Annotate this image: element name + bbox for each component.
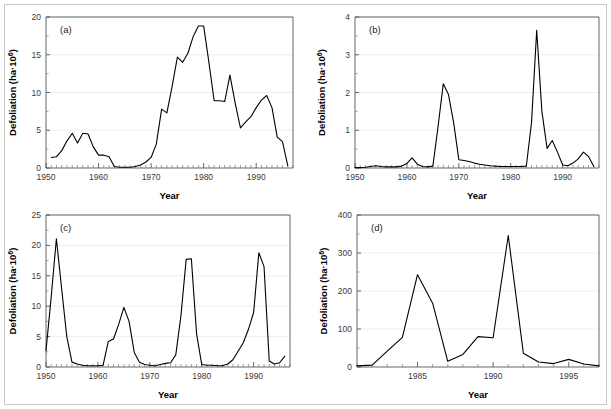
panel-tag-label: (a) (60, 24, 72, 35)
x-tick-label: 1960 (88, 371, 107, 381)
panel-a: 0510152019501960197019801990(a)YearDefol… (0, 0, 305, 205)
x-tick-label: 1970 (142, 172, 161, 182)
panel-tag-label: (d) (371, 222, 383, 233)
y-tick-label: 200 (338, 286, 352, 296)
y-tick-label: 3 (345, 50, 350, 60)
chart-a: 0510152019501960197019801990(a)YearDefol… (0, 0, 305, 205)
x-tick-label: 1990 (553, 172, 572, 182)
y-axis-title: Defoliation (ha·106) (7, 248, 18, 335)
panel-c: 051015202519501960197019801990(c)YearDef… (0, 200, 305, 409)
x-tick-label: 1980 (194, 172, 213, 182)
x-axis-title: Year (468, 389, 488, 400)
y-axis-title: Defoliation (ha·106) (7, 49, 18, 136)
x-tick-label: 1950 (37, 371, 56, 381)
y-tick-label: 25 (32, 210, 42, 220)
y-tick-label: 15 (32, 50, 42, 60)
data-series-line (51, 26, 287, 167)
x-tick-label: 1990 (484, 371, 503, 381)
y-tick-label: 100 (338, 324, 352, 334)
y-tick-label: 5 (36, 332, 41, 342)
y-tick-label: 10 (32, 301, 42, 311)
panel-tag-label: (c) (60, 222, 71, 233)
y-tick-label: 400 (338, 210, 352, 220)
y-tick-label: 300 (338, 248, 352, 258)
panel-d: 0100200300400198519901995(d)YearDefoliat… (305, 200, 611, 409)
x-tick-label: 1960 (89, 172, 108, 182)
data-series-line (357, 236, 599, 366)
y-tick-label: 0 (347, 362, 352, 372)
y-tick-label: 1 (345, 125, 350, 135)
x-tick-label: 1950 (37, 172, 56, 182)
chart-b: 0123419501960197019801990(b)YearDefoliat… (305, 0, 611, 205)
chart-c: 051015202519501960197019801990(c)YearDef… (0, 200, 305, 409)
y-tick-label: 20 (32, 240, 42, 250)
data-series-line (355, 30, 594, 167)
y-tick-label: 10 (32, 88, 42, 98)
x-tick-label: 1995 (559, 371, 578, 381)
x-tick-label: 1990 (244, 371, 263, 381)
chart-d: 0100200300400198519901995(d)YearDefoliat… (305, 200, 611, 409)
x-axis-title: Year (158, 389, 178, 400)
y-axis-title: Defoliation (ha·106) (316, 49, 327, 136)
x-tick-label: 1960 (397, 172, 416, 182)
data-series-line (46, 239, 285, 366)
x-tick-label: 1980 (501, 172, 520, 182)
x-tick-label: 1970 (140, 371, 159, 381)
y-tick-label: 4 (345, 12, 350, 22)
y-tick-label: 15 (32, 271, 42, 281)
y-tick-label: 2 (345, 88, 350, 98)
y-tick-label: 20 (32, 12, 42, 22)
panel-tag-label: (b) (369, 24, 381, 35)
x-tick-label: 1985 (408, 371, 427, 381)
x-tick-label: 1970 (449, 172, 468, 182)
y-axis-title: Defoliation (ha·106) (318, 248, 329, 335)
x-tick-label: 1950 (346, 172, 365, 182)
x-tick-label: 1980 (192, 371, 211, 381)
panel-b: 0123419501960197019801990(b)YearDefoliat… (305, 0, 611, 205)
y-tick-label: 5 (36, 125, 41, 135)
figure-container: 0510152019501960197019801990(a)YearDefol… (0, 0, 611, 409)
x-tick-label: 1990 (247, 172, 266, 182)
